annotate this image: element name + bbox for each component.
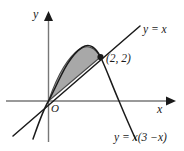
y-axis-label: y xyxy=(33,8,38,20)
x-axis-arrow-icon xyxy=(166,97,176,106)
intersection-point-marker xyxy=(97,54,103,60)
graph-figure: y x O y = x (2, 2) y = x(3 −x) xyxy=(0,0,184,151)
x-axis-label: x xyxy=(157,103,162,115)
line-y-equals-x xyxy=(13,26,140,136)
parabola-equation-label: y = x(3 −x) xyxy=(114,132,167,144)
intersection-point-label: (2, 2) xyxy=(106,53,131,65)
y-axis xyxy=(44,11,53,142)
line-equation-label: y = x xyxy=(143,24,167,36)
y-axis-arrow-icon xyxy=(44,11,53,21)
origin-label: O xyxy=(51,103,59,114)
x-axis xyxy=(6,97,176,106)
